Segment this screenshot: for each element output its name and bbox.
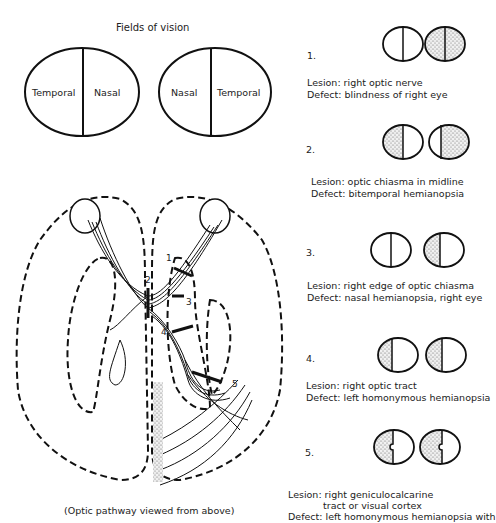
marker-4: 4 (161, 326, 167, 338)
brain-outline (17, 197, 282, 480)
case-1-number: 1. (307, 50, 316, 62)
case-2-defect: Defect: bitemporal hemianopsia (311, 188, 464, 200)
marker-1: 1 (166, 252, 172, 264)
visual-cortex-shading (153, 382, 163, 482)
fields-title: Fields of vision (116, 22, 189, 34)
case-4-number: 4. (306, 353, 315, 365)
case-4-lesion: Lesion: right optic tract (306, 380, 417, 392)
marker-2: 2 (145, 274, 151, 286)
case-4-defect: Defect: left homonymous hemianopsia (306, 392, 490, 404)
case-4-fields (378, 338, 466, 372)
case-3-lesion: Lesion: right edge of optic chiasma (307, 280, 474, 292)
right-eyeball (200, 199, 230, 233)
case-5-fields (374, 430, 460, 464)
marker-3: 3 (186, 296, 192, 308)
case-5-number: 5. (305, 447, 314, 459)
right-eye-temporal-label: Temporal (217, 87, 261, 99)
case-1-fields (383, 27, 465, 61)
case-2-fields (383, 125, 469, 159)
left-eye-temporal-label: Temporal (32, 87, 76, 99)
case-1-defect: Defect: blindness of right eye (307, 89, 448, 101)
right-eye-nasal-label: Nasal (171, 87, 197, 99)
case-3-number: 3. (306, 247, 315, 259)
left-eye-nasal-label: Nasal (94, 87, 120, 99)
pathway-caption: (Optic pathway viewed from above) (64, 505, 234, 517)
case-1-lesion: Lesion: right optic nerve (307, 77, 423, 89)
case-2-lesion: Lesion: optic chiasma in midline (311, 176, 464, 188)
marker-5: 5 (232, 378, 238, 390)
case-3-defect: Defect: nasal hemianopsia, right eye (307, 292, 482, 304)
case-2-number: 2. (306, 144, 315, 156)
left-eyeball (70, 199, 100, 233)
case-5-defect: Defect: left homonymous hemianopsia with (288, 511, 496, 523)
case-3-fields (371, 233, 464, 267)
